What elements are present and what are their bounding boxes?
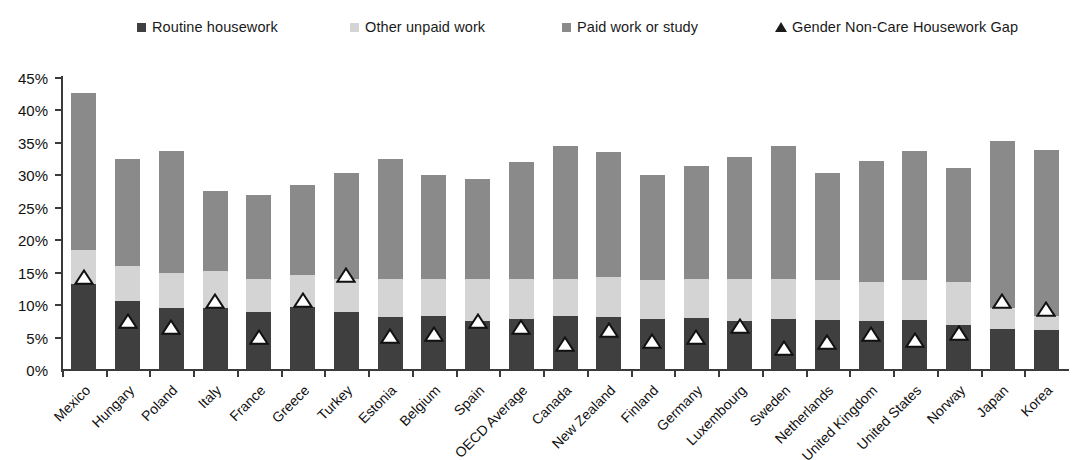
x-axis-tick-mark [456, 370, 458, 377]
bar-group[interactable] [553, 78, 578, 370]
gender-gap-triangle-marker [118, 313, 138, 329]
bar-segment-other-unpaid-work [378, 279, 403, 317]
y-axis-tick-mark [55, 272, 62, 274]
bar-segment-other-unpaid-work [421, 279, 446, 317]
bar-group[interactable] [378, 78, 403, 370]
bar-segment-other-unpaid-work [115, 266, 140, 301]
bar-group[interactable] [902, 78, 927, 370]
bar-segment-paid-work-or-study [159, 151, 184, 273]
bar-segment-paid-work-or-study [684, 166, 709, 278]
bar-group[interactable] [815, 78, 840, 370]
legend-item-other-unpaid-work[interactable]: Other unpaid work [350, 19, 485, 35]
bar-group[interactable] [596, 78, 621, 370]
bar-segment-paid-work-or-study [421, 175, 446, 278]
bar-segment-other-unpaid-work [1034, 316, 1059, 330]
legend-item-gender-non-care-housework-gap[interactable]: Gender Non-Care Housework Gap [775, 19, 1018, 35]
y-axis-tick-label: 20% [0, 232, 48, 249]
bar-group[interactable] [946, 78, 971, 370]
bar-group[interactable] [334, 78, 359, 370]
legend-swatch-icon [137, 23, 146, 32]
legend-swatch-icon [350, 23, 359, 32]
gender-gap-triangle-marker [161, 319, 181, 335]
y-axis-tick-mark [55, 239, 62, 241]
bar-segment-other-unpaid-work [684, 279, 709, 319]
gender-gap-triangle-marker [468, 313, 488, 329]
gender-gap-triangle-marker [380, 328, 400, 344]
y-axis-tick-mark [55, 304, 62, 306]
legend-item-paid-work-or-study[interactable]: Paid work or study [562, 19, 698, 35]
y-axis-tick-label: 35% [0, 134, 48, 151]
bar-segment-paid-work-or-study [465, 179, 490, 279]
bar-group[interactable] [246, 78, 271, 370]
bar-group[interactable] [640, 78, 665, 370]
y-axis-tick-label: 30% [0, 167, 48, 184]
x-axis-category-label: Estonia [355, 382, 399, 426]
bar-segment-paid-work-or-study [596, 152, 621, 277]
bar-segment-paid-work-or-study [1034, 150, 1059, 316]
bar-segment-other-unpaid-work [334, 279, 359, 311]
x-axis-tick-mark [674, 370, 676, 377]
x-axis-tick-mark [631, 370, 633, 377]
x-axis-tick-mark [149, 370, 151, 377]
bar-group[interactable] [990, 78, 1015, 370]
bar-group[interactable] [859, 78, 884, 370]
bar-segment-paid-work-or-study [859, 161, 884, 282]
x-axis-category-label: Hungary [88, 382, 137, 431]
x-axis-tick-mark [237, 370, 239, 377]
bar-segment-paid-work-or-study [902, 151, 927, 279]
bar-segment-paid-work-or-study [771, 146, 796, 279]
bar-group[interactable] [203, 78, 228, 370]
bar-group[interactable] [684, 78, 709, 370]
bar-segment-paid-work-or-study [640, 175, 665, 279]
bar-group[interactable] [290, 78, 315, 370]
x-axis-category-label: Japan [973, 382, 1011, 420]
bar-group[interactable] [727, 78, 752, 370]
legend-label: Routine housework [152, 19, 278, 35]
x-axis-tick-mark [106, 370, 108, 377]
bar-segment-paid-work-or-study [71, 93, 96, 250]
bar-group[interactable] [509, 78, 534, 370]
bar-segment-other-unpaid-work [509, 279, 534, 319]
bar-segment-paid-work-or-study [990, 141, 1015, 308]
x-axis-category-label: Turkey [314, 382, 355, 423]
x-axis-category-label: Spain [450, 382, 487, 419]
bar-group[interactable] [115, 78, 140, 370]
bar-segment-other-unpaid-work [596, 277, 621, 317]
x-axis-tick-mark [893, 370, 895, 377]
y-axis-tick-label: 45% [0, 70, 48, 87]
legend-item-routine-housework[interactable]: Routine housework [137, 19, 278, 35]
bar-segment-paid-work-or-study [246, 195, 271, 278]
y-axis-tick-label: 5% [0, 329, 48, 346]
bar-segment-paid-work-or-study [115, 159, 140, 266]
gender-gap-triangle-marker [774, 340, 794, 356]
x-axis-tick-mark [937, 370, 939, 377]
gender-gap-triangle-marker [817, 334, 837, 350]
x-axis-tick-mark [412, 370, 414, 377]
gender-gap-triangle-marker [642, 333, 662, 349]
legend-label: Other unpaid work [365, 19, 485, 35]
bar-segment-routine-housework [203, 308, 228, 370]
bar-group[interactable] [71, 78, 96, 370]
bar-group[interactable] [771, 78, 796, 370]
bar-segment-routine-housework [421, 316, 446, 370]
gender-gap-triangle-marker [861, 326, 881, 342]
gender-gap-triangle-marker [599, 322, 619, 338]
y-axis-tick-mark [55, 207, 62, 209]
gender-gap-triangle-marker [905, 332, 925, 348]
y-axis-tick-mark [55, 142, 62, 144]
bar-segment-paid-work-or-study [815, 173, 840, 280]
gender-gap-triangle-marker [336, 267, 356, 283]
x-axis-category-label: Korea [1018, 382, 1056, 420]
x-axis-category-label: Greece [268, 382, 312, 426]
bar-group[interactable] [159, 78, 184, 370]
legend-triangle-icon [775, 22, 787, 32]
bar-group[interactable] [1034, 78, 1059, 370]
y-axis-tick-label: 15% [0, 264, 48, 281]
y-axis-tick-label: 40% [0, 102, 48, 119]
legend-swatch-icon [562, 23, 571, 32]
bar-group[interactable] [421, 78, 446, 370]
bar-segment-paid-work-or-study [509, 162, 534, 279]
bar-segment-routine-housework [159, 308, 184, 370]
stacked-bar-chart: Routine houseworkOther unpaid workPaid w… [0, 0, 1074, 460]
bar-group[interactable] [465, 78, 490, 370]
